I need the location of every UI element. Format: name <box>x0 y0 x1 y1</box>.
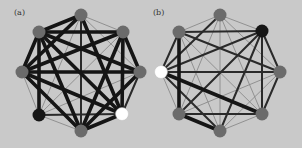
edge-0-1 <box>220 15 262 31</box>
node-bottom-left <box>173 108 186 121</box>
node-bottom <box>214 125 227 138</box>
panel-b-label: (b) <box>153 8 164 17</box>
node-left <box>155 66 168 79</box>
node-bottom-right <box>116 108 129 121</box>
node-top-right <box>117 26 130 39</box>
node-right <box>134 66 147 79</box>
node-bottom-right <box>256 108 269 121</box>
edge-3-5 <box>39 114 122 115</box>
network-graphs <box>0 0 302 148</box>
node-left <box>16 66 29 79</box>
network-figure: (a) (b) <box>0 0 302 148</box>
node-bottom <box>75 125 88 138</box>
node-bottom-left <box>33 109 46 122</box>
node-top-right <box>256 25 269 38</box>
panel-a-label: (a) <box>14 8 25 17</box>
node-top-left <box>33 26 46 39</box>
edge-1-7 <box>179 31 262 32</box>
edge-4-6 <box>22 72 81 131</box>
node-right <box>274 66 287 79</box>
node-top-left <box>173 26 186 39</box>
graph-panel-b <box>155 9 287 138</box>
node-top <box>75 9 88 22</box>
graph-panel-a <box>16 9 147 138</box>
node-top <box>214 9 227 22</box>
